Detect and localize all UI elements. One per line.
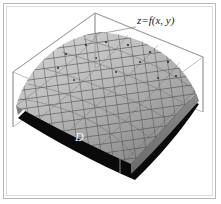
domain-label: D: [75, 131, 84, 143]
surface-equation-label: z=f(x, y): [137, 15, 174, 26]
figure-root: z=f(x, y) D: [0, 0, 221, 204]
surface-mesh-gridlines: [16, 32, 196, 164]
surface-plot-canvas: [0, 0, 221, 204]
surface-label-leader: [104, 27, 136, 33]
